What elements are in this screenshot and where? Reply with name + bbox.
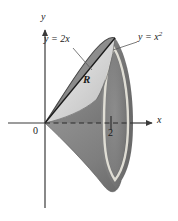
- curve-label-parabola-exponent: 2: [159, 30, 163, 38]
- curve-label-parabola: y = x2: [138, 31, 162, 42]
- x-tick-label-2: 2: [108, 128, 113, 138]
- origin-label: 0: [33, 126, 38, 136]
- curve-label-parabola-base: y = x: [138, 31, 159, 42]
- x-axis-label: x: [157, 115, 161, 125]
- y-axis-label: y: [41, 12, 45, 22]
- curve-label-line: y = 2x: [44, 34, 70, 44]
- figure-container: y x 0 2 y = 2x y = x2 R: [0, 0, 178, 221]
- region-label-R: R: [83, 74, 90, 85]
